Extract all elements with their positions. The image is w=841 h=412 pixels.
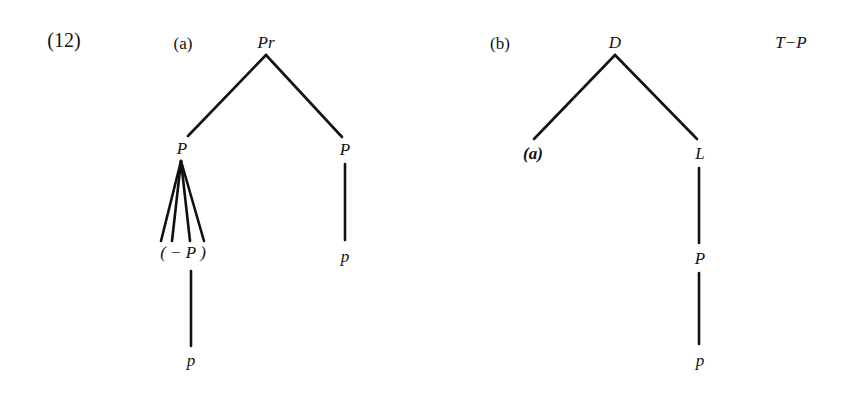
tree-b-left-child: (a) (523, 145, 543, 162)
tree-a-fan-node: ( − P ) (160, 244, 206, 261)
tree-a-left-leaf: p (187, 352, 196, 369)
example-number: (12) (47, 30, 80, 50)
tree-b-side-label: T−P (775, 34, 806, 51)
tree-b-right-child: L (695, 145, 704, 162)
tree-a-right-leaf: p (341, 248, 350, 265)
tree-b-leaf: p (696, 352, 705, 369)
tree-a-root: Pr (258, 34, 275, 51)
tree-a-left-child: P (177, 140, 187, 157)
tree-b-mid-node: P (695, 250, 705, 267)
tree-b-label: (b) (490, 35, 510, 52)
tree-a-right-child: P (340, 141, 350, 158)
tree-a-label: (a) (174, 35, 193, 52)
tree-lines (0, 0, 841, 412)
tree-b-root: D (609, 34, 621, 51)
